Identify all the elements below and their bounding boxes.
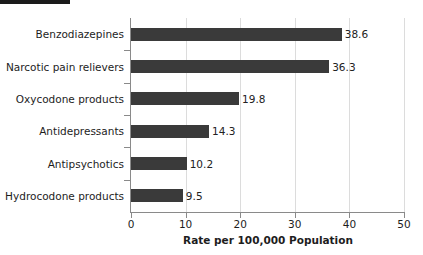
- x-tick-label-30: 30: [275, 219, 315, 230]
- category-label-6: Hydrocodone products: [5, 191, 124, 202]
- category-label-4: Antidepressants: [39, 126, 124, 137]
- x-axis-title: Rate per 100,000 Population: [131, 235, 405, 246]
- x-tick-label-50: 50: [384, 219, 423, 230]
- horizontal-bar-chart: BenzodiazepinesNarcotic pain relieversOx…: [0, 0, 423, 255]
- x-tick-label-0: 0: [111, 219, 151, 230]
- x-tick-label-10: 10: [166, 219, 206, 230]
- category-label-2: Narcotic pain relievers: [6, 62, 124, 73]
- bar-1[interactable]: [131, 28, 342, 41]
- bar-value-label-6: 9.5: [186, 191, 203, 202]
- bar-4[interactable]: [131, 125, 209, 138]
- y-tick-5: [124, 180, 131, 181]
- x-tick-label-20: 20: [220, 219, 260, 230]
- y-tick-3: [124, 115, 131, 116]
- bar-value-label-3: 19.8: [242, 94, 265, 105]
- bar-value-label-4: 14.3: [212, 126, 235, 137]
- x-axis-line: [131, 212, 405, 213]
- y-tick-4: [124, 147, 131, 148]
- gridline-50: [404, 18, 405, 212]
- y-tick-2: [124, 83, 131, 84]
- bar-value-label-1: 38.6: [345, 29, 368, 40]
- plot-area: 38.636.319.814.310.29.5: [131, 18, 404, 212]
- y-tick-1: [124, 50, 131, 51]
- bar-3[interactable]: [131, 92, 239, 105]
- x-tick-label-40: 40: [329, 219, 369, 230]
- bar-2[interactable]: [131, 60, 329, 73]
- bar-5[interactable]: [131, 157, 187, 170]
- bar-6[interactable]: [131, 189, 183, 202]
- category-label-5: Antipsychotics: [48, 159, 124, 170]
- category-axis-labels: BenzodiazepinesNarcotic pain relieversOx…: [0, 0, 124, 255]
- bar-value-label-5: 10.2: [190, 159, 213, 170]
- category-label-1: Benzodiazepines: [36, 29, 124, 40]
- bar-value-label-2: 36.3: [332, 62, 355, 73]
- category-label-3: Oxycodone products: [16, 94, 124, 105]
